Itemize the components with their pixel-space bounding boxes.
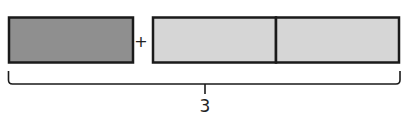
light-unit-box-2: [276, 18, 399, 63]
bracket-label: 3: [200, 96, 211, 115]
light-unit-box-1: [153, 18, 276, 63]
plus-sign: +: [134, 32, 147, 51]
tape-diagram: + 3: [0, 0, 403, 115]
total-bracket: [9, 71, 401, 84]
dark-unit-box: [9, 18, 133, 63]
